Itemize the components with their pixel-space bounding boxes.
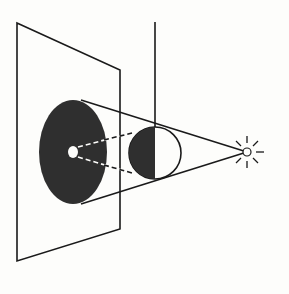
sphere-dark-half bbox=[129, 127, 155, 179]
shadow-diagram bbox=[0, 0, 289, 294]
light-spot bbox=[68, 146, 78, 158]
light-source-icon bbox=[236, 136, 264, 168]
